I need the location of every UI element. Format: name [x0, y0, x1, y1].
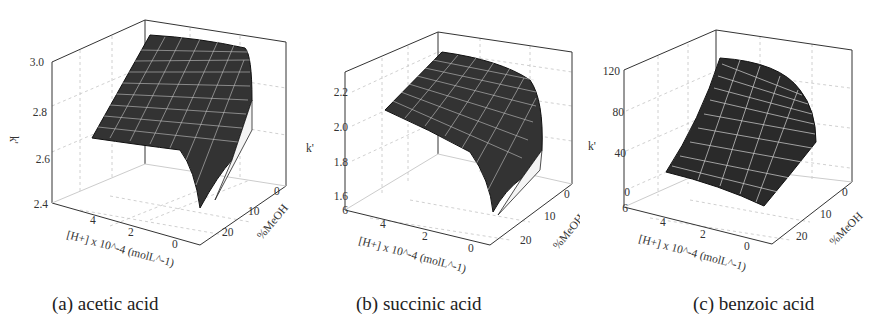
caption-c: (c) benzoic acid — [693, 293, 814, 315]
svg-text:10: 10 — [248, 205, 260, 217]
svg-text:0: 0 — [624, 186, 630, 198]
x-axis-label: [H+] x 10^-4 (molL^-1) — [65, 228, 176, 269]
surface-mesh — [666, 58, 816, 206]
svg-text:0: 0 — [274, 185, 280, 197]
svg-text:2: 2 — [700, 228, 706, 240]
z-ticks: 120 80 40 0 — [603, 65, 631, 198]
svg-text:2.4: 2.4 — [34, 198, 49, 210]
caption-a: (a) acetic acid — [52, 293, 159, 315]
chart-panel-succinic-acid: 2.2 2.0 1.8 1.6 k' 6 4 2 0 [H+] x 10^-4 … — [290, 0, 580, 335]
svg-text:1.6: 1.6 — [334, 190, 349, 202]
svg-text:0: 0 — [172, 238, 178, 250]
svg-text:0: 0 — [842, 186, 848, 198]
svg-text:1.8: 1.8 — [334, 156, 349, 168]
surface-plot-succinic: 2.2 2.0 1.8 1.6 k' 6 4 2 0 [H+] x 10^-4 … — [290, 0, 580, 290]
caption-b: (b) succinic acid — [356, 293, 482, 315]
svg-text:120: 120 — [603, 65, 621, 77]
svg-text:0: 0 — [468, 242, 474, 254]
svg-text:0: 0 — [744, 240, 750, 252]
svg-text:4: 4 — [90, 214, 96, 226]
z-axis-label: k' — [8, 136, 20, 144]
surface-mesh — [92, 35, 252, 208]
svg-text:6: 6 — [342, 204, 348, 216]
surface-plot-acetic: 3.0 2.8 2.6 2.4 k' 4 2 0 [H+] x 10^-4 (m… — [0, 0, 290, 290]
svg-text:4: 4 — [380, 218, 386, 230]
svg-text:20: 20 — [520, 234, 532, 246]
svg-text:20: 20 — [796, 230, 808, 242]
svg-text:3.0: 3.0 — [30, 56, 45, 68]
chart-panel-benzoic-acid: 120 80 40 0 k' 6 4 2 0 [H+] x 10^-4 (mol… — [580, 0, 872, 335]
svg-text:10: 10 — [820, 208, 832, 220]
svg-text:2.6: 2.6 — [36, 153, 51, 165]
x-axis-label: [H+] x 10^-4 (molL^-1) — [357, 234, 468, 275]
svg-text:4: 4 — [660, 216, 666, 228]
surface-plot-benzoic: 120 80 40 0 k' 6 4 2 0 [H+] x 10^-4 (mol… — [580, 0, 872, 290]
svg-text:40: 40 — [615, 147, 627, 159]
surface-mesh — [385, 52, 542, 215]
z-ticks: 2.2 2.0 1.8 1.6 — [334, 86, 349, 202]
svg-text:80: 80 — [613, 106, 625, 118]
x-axis-label: [H+] x 10^-4 (molL^-1) — [637, 232, 748, 273]
svg-text:2.0: 2.0 — [334, 121, 349, 133]
svg-text:2: 2 — [422, 230, 428, 242]
z-ticks: 3.0 2.8 2.6 2.4 — [30, 56, 51, 210]
y-axis-label: %MeOH — [254, 202, 290, 242]
svg-text:10: 10 — [544, 210, 556, 222]
svg-text:2.2: 2.2 — [334, 86, 349, 98]
z-axis-label: k' — [588, 140, 596, 152]
chart-panel-acetic-acid: 3.0 2.8 2.6 2.4 k' 4 2 0 [H+] x 10^-4 (m… — [0, 0, 290, 335]
svg-text:2: 2 — [128, 226, 134, 238]
svg-text:0: 0 — [564, 188, 570, 200]
svg-text:6: 6 — [622, 202, 628, 214]
y-axis-label: %MeOH — [827, 210, 865, 248]
svg-text:2.8: 2.8 — [33, 106, 48, 118]
svg-text:20: 20 — [222, 226, 234, 238]
z-axis-label: k' — [306, 142, 314, 154]
